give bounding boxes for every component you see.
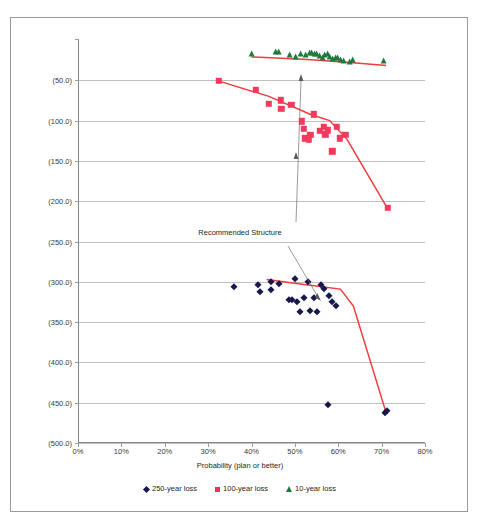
y-axis-labels: (50.0)(100.0)(150.0)(200.0)(250.0)(300.0… — [0, 40, 72, 443]
x-axis-tick — [338, 443, 339, 447]
data-point-triangle — [381, 58, 387, 64]
legend-item-label: 250-year loss — [152, 484, 197, 493]
data-point-triangle — [350, 56, 356, 62]
data-point-triangle — [249, 50, 255, 56]
triangle-icon — [286, 486, 292, 492]
x-axis-labels: 0%10%20%30%40%50%60%70%80% — [78, 443, 425, 457]
x-axis-title: Probability (plan or better) — [0, 461, 480, 470]
data-point-square — [215, 77, 221, 83]
y-axis-tick-label: (450.0) — [48, 398, 72, 407]
x-axis-tick-label: 10% — [114, 447, 129, 456]
x-axis-tick-label: 0% — [73, 447, 84, 456]
data-point-square — [299, 118, 305, 124]
y-axis-tick-label: (200.0) — [48, 197, 72, 206]
y-axis-tick-label: (100.0) — [48, 116, 72, 125]
x-axis-tick — [425, 443, 426, 447]
square-icon — [215, 487, 220, 492]
x-axis-tick — [252, 443, 253, 447]
x-axis-tick-label: 80% — [417, 447, 432, 456]
data-point-square — [342, 132, 348, 138]
x-axis-tick-label: 40% — [244, 447, 259, 456]
x-axis-tick — [295, 443, 296, 447]
data-point-square — [384, 204, 390, 210]
legend-item: 250-year loss — [144, 484, 197, 493]
data-point-square — [253, 87, 259, 93]
legend-item-label: 100-year loss — [223, 484, 268, 493]
x-axis-tick — [78, 443, 79, 447]
x-axis-tick-label: 20% — [157, 447, 172, 456]
legend-item: 10-year loss — [286, 484, 336, 493]
x-axis-tick — [382, 443, 383, 447]
x-axis-tick-label: 60% — [331, 447, 346, 456]
x-axis-tick — [165, 443, 166, 447]
data-point-square — [329, 148, 335, 154]
data-point-square — [333, 124, 339, 130]
x-axis-tick — [208, 443, 209, 447]
data-point-square — [278, 105, 284, 111]
plot-area-wrapper — [78, 40, 425, 443]
legend-item: 100-year loss — [215, 484, 268, 493]
data-point-square — [300, 125, 306, 131]
y-axis-tick-label: (400.0) — [48, 358, 72, 367]
data-point-square — [325, 127, 331, 133]
recommended-structure-annotation: Recommended Structure — [0, 228, 480, 237]
data-point-triangle — [276, 49, 282, 55]
data-point-square — [278, 97, 284, 103]
x-axis-tick — [121, 443, 122, 447]
y-axis-tick-label: (500.0) — [48, 439, 72, 448]
diamond-icon — [143, 485, 150, 492]
data-point-square — [307, 132, 313, 138]
data-point-square — [288, 102, 294, 108]
series-overlay — [78, 40, 425, 443]
y-axis-tick-label: (350.0) — [48, 318, 72, 327]
trend-line — [219, 81, 388, 209]
y-axis-tick-label: (300.0) — [48, 277, 72, 286]
y-axis-tick-label: (50.0) — [52, 76, 72, 85]
chart-legend: 250-year loss100-year loss10-year loss — [0, 484, 480, 493]
data-point-square — [311, 111, 317, 117]
x-axis-tick-label: 30% — [201, 447, 216, 456]
y-axis-tick-label: (250.0) — [48, 237, 72, 246]
data-point-square — [266, 100, 272, 106]
y-axis-tick-label: (150.0) — [48, 156, 72, 165]
legend-item-label: 10-year loss — [295, 484, 336, 493]
x-axis-tick-label: 70% — [374, 447, 389, 456]
x-axis-tick-label: 50% — [287, 447, 302, 456]
faint-page-header — [10, 1, 240, 9]
